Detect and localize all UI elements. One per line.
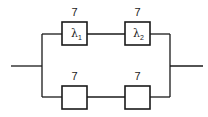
lambda-1-symbol: λ [71,27,78,40]
lambda-2-subscript: 2 [140,34,144,41]
lambda-2-symbol: λ [133,27,140,40]
lambda-1-subscript: 1 [78,34,82,41]
block-bottom-1 [62,86,87,109]
label-bottom-1: 7 [71,70,77,82]
block-bottom-2 [125,86,150,109]
label-top-1: 7 [71,6,77,18]
reliability-diagram: 7 7 7 7 λ 1 λ 2 [0,0,208,117]
label-top-2: 7 [134,6,140,18]
label-bottom-2: 7 [134,70,140,82]
